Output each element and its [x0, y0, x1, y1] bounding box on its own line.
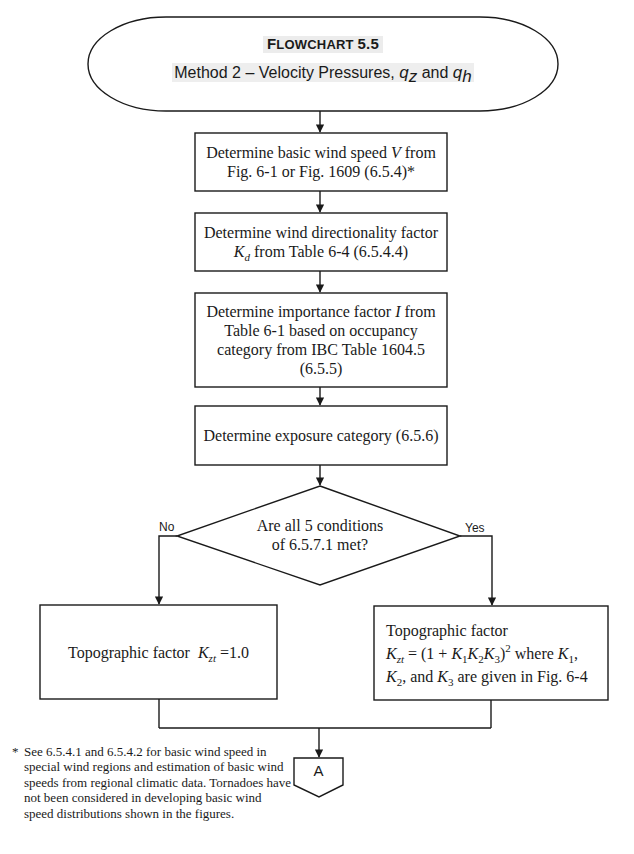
step-exposure-category: Determine exposure category (6.5.6) — [195, 406, 447, 465]
flowchart-subtitle: Method 2 – Velocity Pressures, qz and qh — [88, 63, 558, 83]
flowchart-title: FLOWCHART 5.5 — [88, 35, 558, 52]
start-terminator-content: FLOWCHART 5.5 Method 2 – Velocity Pressu… — [88, 17, 558, 111]
footnote-text: See 6.5.4.1 and 6.5.4.2 for basic wind s… — [24, 744, 292, 821]
footnote: * See 6.5.4.1 and 6.5.4.2 for basic wind… — [12, 744, 292, 821]
yes-label: Yes — [465, 521, 485, 535]
decision-question: Are all 5 conditions of 6.5.7.1 met? — [220, 510, 420, 560]
outcome-no-text: Topographic factor Kzt =1.0 — [40, 605, 277, 699]
outcome-yes-text: Topographic factor Kzt = (1 + K1K2K3)2 w… — [386, 606, 606, 700]
footnote-marker: * — [12, 744, 19, 759]
step-basic-wind-speed: Determine basic wind speed V from Fig. 6… — [195, 133, 447, 191]
step-directionality-factor: Determine wind directionality factor Kd … — [195, 213, 447, 271]
offpage-connector-label: A — [294, 762, 343, 779]
step-importance-factor: Determine importance factor I from Table… — [195, 293, 447, 387]
no-label: No — [159, 520, 174, 534]
